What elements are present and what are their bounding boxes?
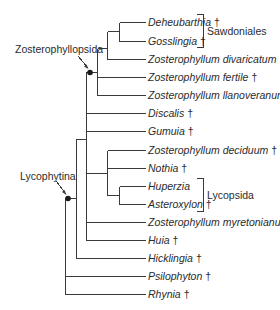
taxon-deheubarthia: Deheubarthia† xyxy=(148,16,220,28)
taxon-zosterophyllum-llanoveranum: Zosterophyllum llanoveranum† xyxy=(148,89,280,101)
taxon-zosterophyllum-deciduum: Zosterophyllum deciduum† xyxy=(148,144,277,156)
node-zosterophyllopsida-icon xyxy=(87,70,93,76)
taxon-gosslingia: Gosslingia† xyxy=(148,35,206,47)
node-lycophytina-icon xyxy=(65,196,71,202)
extinct-dagger-icon: † xyxy=(196,252,202,264)
extinct-dagger-icon: † xyxy=(188,125,194,137)
branch-x97 xyxy=(98,49,147,96)
extinct-dagger-icon: † xyxy=(251,71,257,83)
taxon-nothia: Nothia† xyxy=(148,162,187,174)
taxon-discalis: Discalis† xyxy=(148,107,193,119)
taxon-name: Hicklingia xyxy=(148,252,193,264)
taxon-name: Huperzia xyxy=(148,180,190,192)
extinct-dagger-icon: † xyxy=(206,198,212,210)
branch-x107-upper xyxy=(108,32,147,60)
taxon-gumuia: Gumuia† xyxy=(148,125,194,137)
taxon-name: Gosslingia xyxy=(148,35,197,47)
taxon-name: Rhynia xyxy=(148,288,181,300)
branch-root xyxy=(66,198,147,295)
extinct-dagger-icon: † xyxy=(205,270,211,282)
arrowhead-zosterophyllopsida-icon xyxy=(84,65,89,70)
taxon-name: Deheubarthia xyxy=(148,16,211,28)
extinct-dagger-icon: † xyxy=(279,53,280,65)
taxon-name: Discalis xyxy=(148,107,184,119)
extinct-dagger-icon: † xyxy=(184,288,190,300)
taxon-name: Nothia xyxy=(148,162,178,174)
taxon-name: Zosterophyllum myretonianum xyxy=(148,216,280,228)
extinct-dagger-icon: † xyxy=(200,35,206,47)
clade-label-lycophytina: Lycophytina xyxy=(20,170,76,182)
taxon-huperzia: Huperzia xyxy=(148,180,190,192)
taxon-zosterophyllum-myretonianum: Zosterophyllum myretonianum† xyxy=(148,216,280,228)
clade-label-zosterophyllopsida: Zosterophyllopsida xyxy=(15,43,103,55)
taxon-name: Zosterophyllum deciduum xyxy=(148,144,268,156)
extinct-dagger-icon: † xyxy=(187,107,193,119)
taxon-name: Huia xyxy=(148,234,170,246)
taxon-name: Zosterophyllum fertile xyxy=(148,71,248,83)
taxon-name: Asteroxylon xyxy=(148,198,203,210)
group-label-lycopsida: Lycopsida xyxy=(207,189,254,201)
extinct-dagger-icon: † xyxy=(181,162,187,174)
taxon-name: Zosterophyllum llanoveranum xyxy=(148,89,280,101)
taxon-rhynia: Rhynia† xyxy=(148,288,190,300)
taxon-zosterophyllum-divaricatum: Zosterophyllum divaricatum† xyxy=(148,53,280,65)
taxon-name: Zosterophyllum divaricatum xyxy=(148,53,276,65)
taxon-asteroxylon: Asteroxylon† xyxy=(148,198,212,210)
taxon-hicklingia: Hicklingia† xyxy=(148,252,202,264)
extinct-dagger-icon: † xyxy=(214,16,220,28)
extinct-dagger-icon: † xyxy=(173,234,179,246)
taxon-huia: Huia† xyxy=(148,234,178,246)
taxon-zosterophyllum-fertile: Zosterophyllum fertile† xyxy=(148,71,257,83)
arrowhead-lycophytina-icon xyxy=(62,190,67,195)
extinct-dagger-icon: † xyxy=(271,144,277,156)
taxon-psilophyton: Psilophyton† xyxy=(148,270,211,282)
taxon-name: Gumuia xyxy=(148,125,185,137)
taxon-name: Psilophyton xyxy=(148,270,202,282)
branch-x86 xyxy=(87,72,147,241)
